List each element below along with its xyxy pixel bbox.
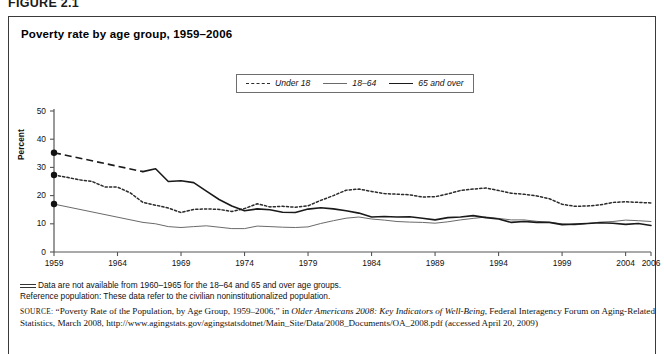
- x-tick-label: 1994: [479, 258, 519, 268]
- x-tick-label: 1959: [34, 258, 74, 268]
- x-tick-label: 1969: [161, 258, 201, 268]
- y-tick-label: 20: [24, 190, 46, 200]
- series-line: [54, 175, 651, 213]
- source-in: in: [280, 306, 292, 316]
- x-tick-label: 1999: [542, 258, 582, 268]
- y-tick-label: 10: [24, 218, 46, 228]
- source-prefix: SOURCE:: [20, 307, 53, 316]
- source-quote: “Poverty Rate of the Population, by Age …: [56, 306, 280, 316]
- note-availability-text: Data are not available from 1960–1965 fo…: [38, 280, 341, 290]
- x-tick-label: 1974: [225, 258, 265, 268]
- x-tick-label: 1964: [98, 258, 138, 268]
- chart-source: SOURCE: “Poverty Rate of the Population,…: [20, 306, 656, 329]
- poverty-rate-line-chart: [0, 0, 664, 300]
- series-start-marker: [51, 150, 57, 156]
- source-publication: Older Americans 2008: Key Indicators of …: [291, 306, 484, 316]
- y-tick-label: 40: [24, 134, 46, 144]
- series-start-marker: [51, 172, 57, 178]
- chart-plot-area: Percent 01020304050 19591964196919741979…: [0, 0, 664, 300]
- series-line: [143, 169, 651, 226]
- series-gap-line: [54, 204, 143, 222]
- chart-notes: Data are not available from 1960–1965 fo…: [20, 280, 650, 302]
- y-tick-label: 30: [24, 162, 46, 172]
- note-reference-population: Reference population: These data refer t…: [20, 291, 650, 302]
- series-start-marker: [51, 201, 57, 207]
- y-tick-label: 0: [24, 247, 46, 257]
- x-tick-label: 1979: [288, 258, 328, 268]
- series-line: [143, 217, 651, 229]
- x-tick-label: 1989: [415, 258, 455, 268]
- series-gap-line: [54, 153, 143, 172]
- x-tick-label: 2006: [631, 258, 664, 268]
- note-availability: Data are not available from 1960–1965 fo…: [20, 280, 650, 291]
- y-tick-label: 50: [24, 106, 46, 116]
- dashed-marker-icon: [20, 283, 36, 289]
- x-tick-label: 1984: [352, 258, 392, 268]
